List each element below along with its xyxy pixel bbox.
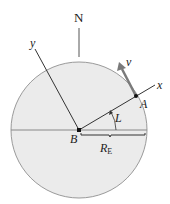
north-label: N [74,10,84,25]
diagram-canvas: N y x v A B L RE [0,0,170,204]
x-axis-label: x [156,78,163,92]
point-a [134,94,138,98]
y-axis-label: y [29,36,36,50]
point-a-label: A [139,97,148,111]
point-b-label: B [70,132,78,146]
latitude-label: L [114,111,122,125]
point-b [77,128,81,132]
velocity-label: v [126,55,132,69]
